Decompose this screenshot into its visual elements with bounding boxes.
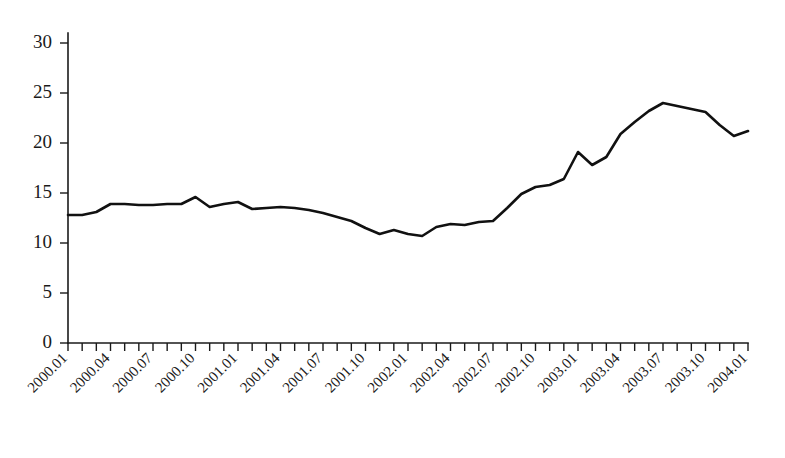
x-tick-label: 2001.04: [237, 349, 283, 395]
x-tick-labels: 2000.012000.042000.072000.102001.012001.…: [24, 349, 750, 395]
x-tick-label: 2003.04: [577, 349, 623, 395]
x-tick-label: 2003.10: [662, 350, 708, 396]
x-axis: [68, 343, 748, 351]
x-tick-label: 2000.01: [24, 350, 70, 396]
y-tick-label: 10: [33, 231, 52, 252]
line-chart: 051015202530 2000.012000.042000.072000.1…: [0, 0, 785, 458]
series-line: [68, 103, 748, 236]
y-tick-label: 25: [33, 81, 52, 102]
x-tick-label: 2002.01: [364, 350, 410, 396]
y-tick-label: 15: [33, 181, 52, 202]
x-tick-label: 2000.07: [109, 349, 155, 395]
y-tick-label: 5: [43, 281, 53, 302]
x-tick-label: 2004.01: [704, 350, 750, 396]
x-tick-label: 2000.10: [152, 350, 198, 396]
data-series: [68, 103, 748, 236]
chart-canvas: 051015202530 2000.012000.042000.072000.1…: [0, 0, 785, 458]
x-tick-label: 2002.10: [492, 350, 538, 396]
x-tick-label: 2003.07: [619, 349, 665, 395]
x-tick-label: 2002.07: [449, 349, 495, 395]
x-tick-label: 2000.04: [67, 349, 113, 395]
x-tick-label: 2001.01: [194, 350, 240, 396]
y-tick-label: 20: [33, 131, 52, 152]
y-tick-label: 30: [33, 31, 52, 52]
x-tick-label: 2001.10: [322, 350, 368, 396]
y-axis: 051015202530: [33, 31, 68, 352]
x-tick-label: 2001.07: [279, 349, 325, 395]
y-tick-label: 0: [43, 331, 53, 352]
x-tick-label: 2002.04: [407, 349, 453, 395]
x-tick-label: 2003.01: [534, 350, 580, 396]
